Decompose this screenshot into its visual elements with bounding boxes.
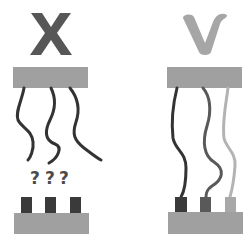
left-pin-1 [21, 197, 32, 213]
left-loose-wires [17, 88, 101, 163]
right-panel [167, 14, 243, 234]
connected-wire-medium [203, 88, 221, 197]
diagram-canvas [0, 0, 252, 249]
right-pin-medium [200, 197, 211, 213]
right-pin-light [225, 197, 236, 213]
question-mark-2: ? [45, 168, 55, 188]
right-bottom-connector-bar [168, 212, 243, 234]
left-panel [13, 13, 101, 234]
checkmark-icon [183, 14, 227, 55]
right-pin-dark [175, 197, 187, 213]
loose-wire-3 [70, 88, 101, 160]
left-pin-2 [45, 197, 56, 213]
loose-wire-1 [17, 88, 33, 160]
connected-wire-light [223, 88, 235, 197]
left-bottom-connector-bar [14, 213, 89, 234]
left-pin-3 [70, 197, 81, 213]
left-top-connector-bar [13, 67, 88, 88]
right-connected-wires [172, 88, 235, 197]
loose-wire-2 [46, 88, 59, 163]
question-mark-3: ? [59, 168, 69, 188]
right-top-connector-bar [167, 67, 242, 88]
connected-wire-dark [172, 88, 186, 197]
question-mark-1: ? [30, 168, 40, 188]
x-icon [30, 13, 72, 55]
